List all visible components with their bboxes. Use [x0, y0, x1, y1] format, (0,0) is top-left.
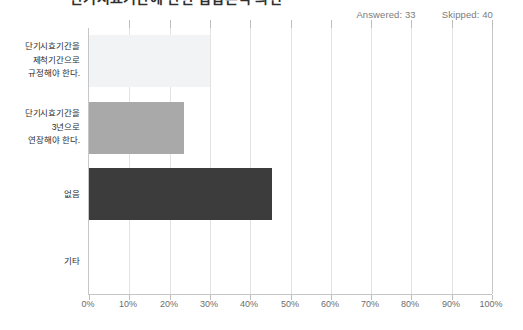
bar-2[interactable] [89, 168, 272, 220]
top-tick-20% [170, 20, 171, 28]
category-label-2-line-0: 없음 [0, 188, 80, 202]
category-label-3: 기타 [0, 255, 80, 269]
category-label-0: 단기시효기간을 제척기간으로 규정해야 한다. [0, 40, 80, 81]
gridline-100% [492, 28, 493, 294]
x-axis-tick-label-100%: 100% [479, 299, 502, 309]
skipped-count: Skipped: 40 [442, 9, 493, 20]
x-axis-tick-label-70%: 70% [361, 299, 379, 309]
chart-title-text: 단기시효기간에 관한 입법론적 의견 [70, 0, 282, 7]
category-label-1: 단기시효기간을 3년으로 연장해야 한다. [0, 107, 80, 148]
bar-row [89, 28, 492, 95]
x-axis-tick-label-0%: 0% [81, 299, 94, 309]
top-tick-40% [250, 20, 251, 28]
x-axis-tick-label-50%: 50% [281, 299, 299, 309]
x-axis-tick-label-80%: 80% [401, 299, 419, 309]
category-label-1-line-2: 연장해야 한다. [0, 134, 80, 148]
top-tick-10% [129, 20, 130, 28]
chart-title-clipped: 단기시효기간에 관한 입법론적 의견 [0, 0, 523, 9]
category-label-0-line-1: 제척기간으로 [0, 54, 80, 68]
response-summary: Answered: 33 Skipped: 40 [356, 9, 493, 20]
top-tick-100% [492, 20, 493, 28]
category-label-0-line-2: 규정해야 한다. [0, 67, 80, 81]
top-tick-60% [331, 20, 332, 28]
top-tick-50% [291, 20, 292, 28]
category-label-2: 없음 [0, 188, 80, 202]
category-label-0-line-0: 단기시효기간을 [0, 40, 80, 54]
x-axis-tick-label-90%: 90% [442, 299, 460, 309]
top-tick-90% [452, 20, 453, 28]
bar-row [89, 161, 492, 228]
category-label-3-line-0: 기타 [0, 255, 80, 269]
answered-count: Answered: 33 [356, 9, 415, 20]
x-axis-tick-label-30%: 30% [200, 299, 218, 309]
bar-1[interactable] [89, 102, 184, 154]
chart-plot-area [88, 28, 492, 295]
x-axis-tick-label-10%: 10% [119, 299, 137, 309]
category-label-1-line-1: 3년으로 [0, 121, 80, 135]
top-tick-70% [371, 20, 372, 28]
bar-row [89, 228, 492, 295]
x-axis-tick-label-40%: 40% [240, 299, 258, 309]
x-axis-tick-label-60%: 60% [321, 299, 339, 309]
bar-row [89, 95, 492, 162]
top-tick-80% [411, 20, 412, 28]
category-label-1-line-0: 단기시효기간을 [0, 107, 80, 121]
bar-0[interactable] [89, 35, 210, 87]
top-tick-30% [210, 20, 211, 28]
x-axis-tick-label-20%: 20% [160, 299, 178, 309]
